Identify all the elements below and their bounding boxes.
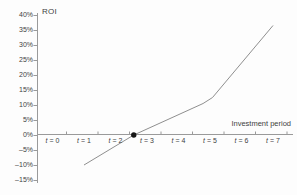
roi-chart: ROI Investment period 40%35%30%25%20%15%… <box>0 0 297 195</box>
y-tick-label: 25% <box>0 56 33 63</box>
x-tick-label: t = 0 <box>39 137 67 144</box>
time-variable: t <box>172 137 174 144</box>
y-tick-label: 20% <box>0 71 33 78</box>
x-axis-title: Investment period <box>231 119 291 128</box>
x-tick-label: t = 4 <box>165 137 193 144</box>
x-tick-label: t = 1 <box>70 137 98 144</box>
y-tick-label: 10% <box>0 101 33 108</box>
y-tick-label: 30% <box>0 41 33 48</box>
y-tick-label: –10% <box>0 161 33 168</box>
x-tick-label: t = 7 <box>259 137 287 144</box>
x-tick-label: t = 5 <box>196 137 224 144</box>
x-tick-label: t = 3 <box>133 137 161 144</box>
y-tick-label: 0% <box>0 131 33 138</box>
time-variable: t <box>46 137 48 144</box>
y-tick-label: 15% <box>0 86 33 93</box>
y-tick-label: 5% <box>0 116 33 123</box>
y-tick-label: 35% <box>0 26 33 33</box>
chart-canvas <box>0 0 297 195</box>
y-tick-label: –5% <box>0 146 33 153</box>
x-tick-label: t = 2 <box>102 137 130 144</box>
time-variable: t <box>140 137 142 144</box>
time-variable: t <box>109 137 111 144</box>
y-tick-label: 40% <box>0 11 33 18</box>
time-variable: t <box>77 137 79 144</box>
roi-curve <box>84 26 273 166</box>
y-tick-label: –15% <box>0 176 33 183</box>
time-variable: t <box>266 137 268 144</box>
x-tick-label: t = 6 <box>228 137 256 144</box>
time-variable: t <box>203 137 205 144</box>
y-axis-title: ROI <box>42 7 57 16</box>
time-variable: t <box>235 137 237 144</box>
